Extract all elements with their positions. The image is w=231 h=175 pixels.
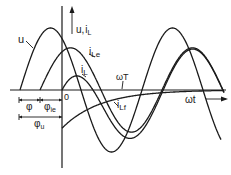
diagram-canvas: u,iL ωt 0 u iLe iL ωT iLf φ φie φu	[0, 0, 231, 175]
x-axis-label: ωt	[185, 94, 196, 105]
y-axis-label: u,iL	[76, 24, 92, 36]
y-arrow-head-icon	[70, 6, 75, 13]
ile-label: iLe	[89, 46, 101, 59]
omegaT-leader	[122, 81, 123, 89]
u-leader	[26, 41, 33, 48]
x-arrow-head-icon	[221, 97, 228, 102]
curve-i-lf	[62, 91, 224, 129]
ilf-label: iLf	[117, 99, 127, 112]
phi-ie-label: φie	[44, 101, 56, 113]
omegaT-label: ωT	[116, 72, 129, 82]
il-label: iL	[81, 64, 88, 77]
origin-label: 0	[64, 92, 69, 102]
u-label: u	[18, 33, 24, 45]
phi-u-label: φu	[34, 118, 44, 130]
phi-label: φ	[26, 101, 33, 112]
